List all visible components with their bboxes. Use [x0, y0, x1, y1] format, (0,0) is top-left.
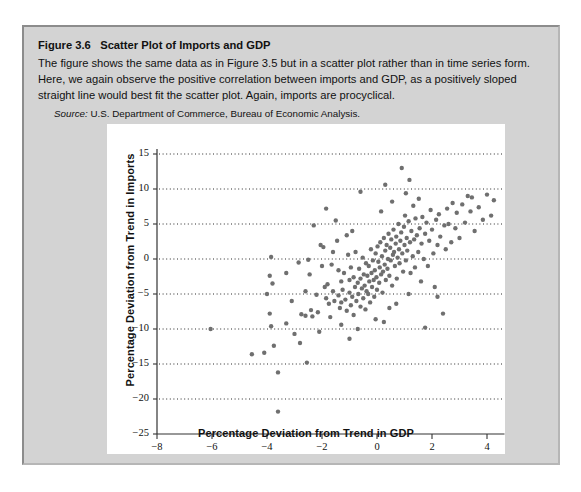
scatter-point: [290, 299, 294, 303]
figure-title-line: Figure 3.6 Scatter Plot of Imports and G…: [38, 38, 546, 53]
y-tick-label: 5: [119, 217, 149, 228]
scatter-point: [437, 212, 441, 216]
scatter-point: [369, 247, 373, 251]
scatter-point: [455, 211, 459, 215]
source-label: Source:: [54, 108, 88, 119]
scatter-point: [422, 257, 426, 261]
scatter-point: [435, 295, 439, 299]
scatter-point: [468, 209, 472, 213]
scatter-point: [417, 226, 421, 230]
scatter-point: [363, 307, 367, 311]
scatter-point: [339, 279, 343, 283]
scatter-point: [391, 227, 395, 231]
scatter-point: [433, 285, 437, 289]
scatter-point: [375, 244, 379, 248]
scatter-point: [378, 265, 382, 269]
scatter-point: [303, 289, 307, 293]
scatter-point: [449, 240, 453, 244]
scatter-point: [383, 183, 387, 187]
scatter-point: [413, 265, 417, 269]
scatter-point: [398, 239, 402, 243]
scatter-point: [325, 282, 329, 286]
scatter-point: [406, 292, 410, 296]
scatter-point: [250, 352, 254, 356]
scatter-point: [380, 254, 384, 258]
x-tick-label: −8: [142, 441, 172, 452]
scatter-point: [347, 290, 351, 294]
scatter-point: [331, 250, 335, 254]
scatter-plot-panel: Percentage Deviation from Trend in GDP P…: [107, 124, 505, 454]
scatter-point: [375, 288, 379, 292]
y-tick-label: 10: [119, 182, 149, 193]
scatter-point: [356, 281, 360, 285]
source-text: U.S. Department of Commerce, Bureau of E…: [91, 108, 361, 119]
scatter-point: [423, 232, 427, 236]
scatter-point: [394, 241, 398, 245]
scatter-point: [383, 248, 387, 252]
scatter-point: [402, 243, 406, 247]
scatter-point: [466, 194, 470, 198]
scatter-point: [457, 236, 461, 240]
scatter-point: [424, 220, 428, 224]
scatter-point: [338, 306, 342, 310]
scatter-point: [376, 260, 380, 264]
scatter-point: [373, 268, 377, 272]
scatter-point: [409, 229, 413, 233]
scatter-point: [387, 274, 391, 278]
scatter-point: [356, 292, 360, 296]
scatter-point: [405, 236, 409, 240]
scatter-point: [382, 320, 386, 324]
scatter-point: [390, 283, 394, 287]
scatter-point: [208, 327, 212, 331]
scatter-point: [485, 192, 489, 196]
scatter-point: [383, 262, 387, 266]
scatter-point: [393, 264, 397, 268]
scatter-point: [412, 237, 416, 241]
scatter-point: [438, 234, 442, 238]
y-axis-title: Percentage Deviation from Trend in Impor…: [124, 125, 136, 415]
scatter-point: [270, 281, 274, 285]
scatter-point: [347, 337, 351, 341]
scatter-point: [268, 311, 272, 315]
scatter-point: [416, 250, 420, 254]
scatter-point: [357, 267, 361, 271]
scatter-point: [413, 216, 417, 220]
scatter-point: [314, 293, 318, 297]
scatter-point: [367, 279, 371, 283]
scatter-point: [365, 274, 369, 278]
x-tick-label: −6: [197, 441, 227, 452]
y-tick-label: −25: [119, 427, 149, 438]
scatter-point: [381, 269, 385, 273]
scatter-point: [371, 258, 375, 262]
scatter-point: [400, 251, 404, 255]
scatter-point: [388, 246, 392, 250]
scatter-point: [305, 360, 309, 364]
scatter-point: [332, 299, 336, 303]
scatter-point: [417, 197, 421, 201]
scatter-point: [441, 311, 445, 315]
y-tick-label: −15: [119, 357, 149, 368]
scatter-point: [269, 324, 273, 328]
scatter-point: [415, 233, 419, 237]
scatter-point: [404, 191, 408, 195]
scatter-point: [276, 370, 280, 374]
scatter-point: [408, 271, 412, 275]
scatter-point: [403, 213, 407, 217]
scatter-point: [431, 251, 435, 255]
scatter-point: [303, 314, 307, 318]
scatter-point: [320, 264, 324, 268]
scatter-point: [463, 220, 467, 224]
scatter-point: [384, 243, 388, 247]
scatter-point: [292, 332, 296, 336]
scatter-point: [401, 269, 405, 273]
scatter-point: [372, 295, 376, 299]
scatter-point: [347, 278, 351, 282]
x-tick-label: −2: [307, 441, 337, 452]
scatter-point: [444, 247, 448, 251]
scatter-point: [345, 309, 349, 313]
scatter-point: [349, 265, 353, 269]
scatter-point: [380, 290, 384, 294]
scatter-point: [336, 268, 340, 272]
figure-source: Source: U.S. Department of Commerce, Bur…: [54, 108, 546, 119]
scatter-point: [435, 243, 439, 247]
